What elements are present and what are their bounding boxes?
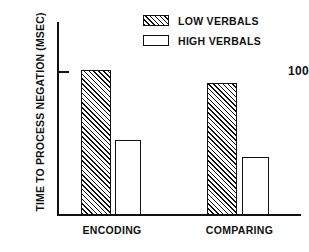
bar-chart: TIME TO PROCESS NEGATION (MSEC) 100 ENCO…	[0, 0, 309, 252]
category-label-comparing: COMPARING	[187, 224, 292, 236]
y-tick-label-100: 100	[263, 64, 309, 78]
hatched-swatch-icon	[143, 15, 169, 26]
bar-comparing-high-verbals	[242, 157, 269, 215]
bar-encoding-high-verbals	[115, 140, 141, 215]
y-axis-line	[57, 22, 59, 216]
category-label-encoding: ENCODING	[62, 224, 162, 236]
bar-encoding-low-verbals	[81, 70, 111, 215]
legend-label-low-verbals: LOW VERBALS	[178, 15, 259, 27]
bar-comparing-low-verbals	[207, 83, 237, 215]
legend-label-high-verbals: HIGH VERBALS	[178, 35, 261, 47]
legend-entry-low-verbals: LOW VERBALS	[143, 12, 261, 29]
y-axis-label: TIME TO PROCESS NEGATION (MSEC)	[34, 12, 46, 212]
y-tick-100	[58, 71, 69, 73]
empty-swatch-icon	[143, 35, 169, 46]
legend-entry-high-verbals: HIGH VERBALS	[143, 32, 261, 49]
legend: LOW VERBALS HIGH VERBALS	[143, 12, 261, 52]
